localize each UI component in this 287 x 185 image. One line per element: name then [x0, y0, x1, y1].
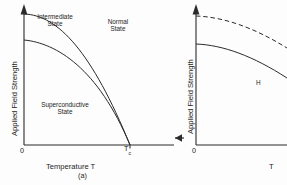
region-normal-line1: Normal: [108, 18, 129, 25]
region-super-line1: Superconductive: [41, 101, 89, 108]
tc-main-letter: T: [124, 144, 128, 153]
x-axis-tick-zero-a: 0: [20, 147, 24, 155]
upper-critical-curve-a: [24, 14, 130, 145]
x-axis-title-b: T: [269, 163, 274, 172]
lower-critical-curve-a: [24, 40, 130, 145]
y-axis-title-b: Applied Field Strength: [187, 59, 196, 134]
x-axis-tick-zero-b: 0: [192, 147, 196, 155]
left-edge-arrow-marker: [175, 134, 184, 142]
phase-diagram-panel-b: Applied Field Strength H 0 T: [175, 0, 287, 185]
tc-subscript: c: [129, 150, 132, 156]
upper-critical-curve-dashed-b: [196, 16, 287, 48]
x-axis-title-a: Temperature T: [46, 163, 95, 172]
x-axis-tick-critical-temperature-a: Tc: [124, 145, 131, 155]
panel-a-linework: [0, 0, 175, 185]
y-axis-title-a: Applied Field Strength: [11, 61, 20, 136]
h-field-label-b: H: [256, 79, 261, 86]
lower-critical-curve-solid-b: [196, 44, 287, 78]
region-label-superconductive-state: Superconductive State: [26, 101, 104, 115]
region-intermediate-line2: State: [48, 20, 63, 27]
region-normal-line2: State: [111, 25, 126, 32]
panel-caption-a: (a): [78, 172, 87, 180]
region-label-normal-state: Normal State: [97, 18, 139, 32]
y-axis-arrowhead-b: [193, 4, 200, 15]
region-label-intermediate-state: Intermediate State: [31, 13, 79, 27]
region-intermediate-line1: Intermediate: [37, 13, 73, 20]
phase-diagram-panel-a: Applied Field Strength Intermediate Stat…: [0, 0, 175, 185]
y-axis-arrowhead-a: [21, 4, 28, 15]
region-super-line2: State: [58, 108, 73, 115]
figure-root: Applied Field Strength Intermediate Stat…: [0, 0, 287, 185]
